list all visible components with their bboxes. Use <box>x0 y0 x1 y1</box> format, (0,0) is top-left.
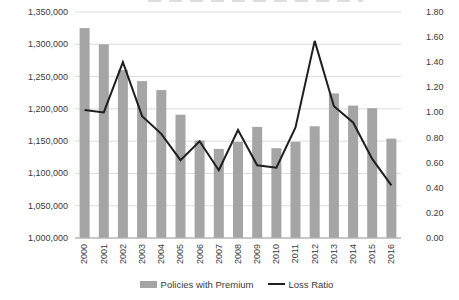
left-axis-tick-label: 1,350,000 <box>28 7 68 17</box>
right-axis-tick-label: 0.40 <box>426 183 444 193</box>
bar-2000 <box>80 28 90 238</box>
x-axis-label-2011: 2011 <box>290 244 300 263</box>
x-axis-label-2012: 2012 <box>310 244 320 264</box>
bar-2013 <box>329 93 339 238</box>
bar-2016 <box>386 139 396 238</box>
x-axis-label-2015: 2015 <box>367 244 377 264</box>
bar-2014 <box>348 106 358 238</box>
left-axis-tick-label: 1,300,000 <box>28 39 68 49</box>
right-axis-tick-label: 0.80 <box>426 133 444 143</box>
bar-2015 <box>367 108 377 238</box>
bar-2008 <box>233 142 243 238</box>
legend-item-policies: Policies with Premium <box>140 279 254 290</box>
bar-2004 <box>156 90 166 238</box>
legend-label-policies: Policies with Premium <box>161 279 254 290</box>
x-axis-label-2001: 2001 <box>99 244 109 264</box>
bar-2012 <box>310 126 320 238</box>
x-axis-label-2016: 2016 <box>386 244 396 264</box>
x-axis-label-2014: 2014 <box>348 244 358 264</box>
left-axis-tick-label: 1,050,000 <box>28 201 68 211</box>
right-axis-tick-label: 0.00 <box>426 233 444 243</box>
right-axis-tick-label: 1.60 <box>426 32 444 42</box>
x-axis-label-2008: 2008 <box>233 244 243 264</box>
x-axis-label-2003: 2003 <box>137 244 147 264</box>
right-axis-tick-label: 0.20 <box>426 208 444 218</box>
loss-ratio-line-swatch-icon <box>268 283 285 285</box>
bar-2005 <box>176 115 186 238</box>
bar-2011 <box>291 142 301 238</box>
left-axis-tick-label: 1,000,000 <box>28 233 68 243</box>
right-axis-tick-label: 1.20 <box>426 82 444 92</box>
right-axis-tick-label: 1.00 <box>426 107 444 117</box>
left-axis-tick-label: 1,100,000 <box>28 168 68 178</box>
bar-2009 <box>252 127 262 238</box>
bar-2001 <box>99 44 109 238</box>
left-axis-tick-label: 1,200,000 <box>28 104 68 114</box>
x-axis-label-2004: 2004 <box>156 244 166 264</box>
x-axis-label-2000: 2000 <box>79 244 89 264</box>
x-axis-label-2002: 2002 <box>118 244 128 264</box>
x-axis-label-2010: 2010 <box>271 244 281 264</box>
right-axis-tick-label: 1.80 <box>426 7 444 17</box>
x-axis-label-2009: 2009 <box>252 244 262 264</box>
right-axis-tick-label: 0.60 <box>426 158 444 168</box>
chart-container: 1,350,0001,300,0001,250,0001,200,0001,15… <box>0 0 459 300</box>
policies-bar-swatch-icon <box>140 281 157 288</box>
legend-item-loss-ratio: Loss Ratio <box>268 279 334 290</box>
left-axis-tick-label: 1,250,000 <box>28 72 68 82</box>
x-axis-label-2007: 2007 <box>214 244 224 264</box>
bar-2006 <box>195 141 205 239</box>
right-axis-tick-label: 1.40 <box>426 57 444 67</box>
bar-2002 <box>118 70 128 238</box>
x-axis-label-2006: 2006 <box>195 244 205 264</box>
x-axis-label-2005: 2005 <box>175 244 185 264</box>
plot-area: 1,350,0001,300,0001,250,0001,200,0001,15… <box>0 0 459 276</box>
legend-label-loss-ratio: Loss Ratio <box>289 279 334 290</box>
left-axis-tick-label: 1,150,000 <box>28 136 68 146</box>
legend: Policies with Premium Loss Ratio <box>0 276 459 292</box>
x-axis-label-2013: 2013 <box>329 244 339 264</box>
